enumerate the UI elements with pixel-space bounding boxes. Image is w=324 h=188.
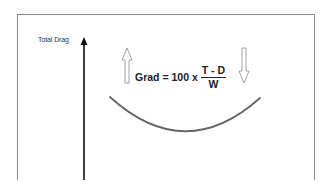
gradient-formula: Grad = 100 x T - D W — [135, 62, 226, 92]
diagram-canvas — [0, 0, 324, 188]
up-arrow-icon — [122, 48, 132, 83]
drag-curve — [110, 97, 260, 131]
formula-numerator: T - D — [201, 65, 226, 78]
formula-lhs: Grad = 100 x — [135, 71, 198, 83]
down-arrow-icon — [239, 48, 249, 83]
formula-fraction: T - D W — [201, 65, 226, 90]
y-axis-arrow-icon — [81, 37, 88, 180]
formula-denominator: W — [208, 78, 218, 90]
